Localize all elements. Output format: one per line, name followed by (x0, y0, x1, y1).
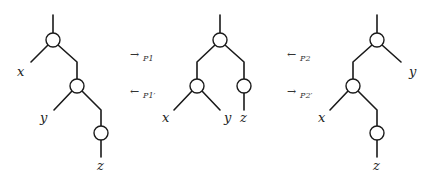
edge-to-y (382, 45, 401, 62)
tree-rotation-diagram: x y z → P1 ← P1′ x y z ← P2 → P2′ (0, 0, 436, 181)
leaf-x: x (318, 110, 326, 125)
edge-to-subtree (353, 45, 372, 79)
edge-to-right-subtree (225, 45, 244, 79)
leaf-y: y (223, 110, 232, 125)
arrow-label-p1-prime: P1′ (142, 91, 155, 100)
node-root (213, 33, 227, 47)
leaf-y: y (39, 110, 48, 125)
leaf-z: z (96, 158, 104, 173)
node-inner (70, 79, 84, 93)
edge-to-x (330, 91, 348, 110)
leaf-z: z (239, 110, 247, 125)
edge-to-x (31, 45, 48, 62)
node-root (46, 33, 60, 47)
node-inner (190, 79, 204, 93)
tree-middle: x y z (162, 15, 251, 125)
arrow-left-icon: ← (287, 48, 296, 61)
tree-left: x y z (17, 15, 108, 173)
arrow-right-icon: → (130, 48, 139, 61)
edge-to-left-subtree (197, 45, 215, 79)
node-unary (237, 79, 251, 93)
arrows-p2: ← P2 → P2′ (287, 48, 312, 100)
node-unary (94, 126, 108, 140)
arrow-right-icon: → (287, 85, 296, 98)
leaf-x: x (17, 64, 25, 79)
node-unary (370, 126, 384, 140)
edge-to-x (174, 91, 192, 110)
node-root (370, 33, 384, 47)
edge-to-y (202, 91, 220, 110)
edge-to-subtree (58, 45, 77, 79)
arrow-label-p2: P2 (299, 54, 310, 63)
leaf-y: y (408, 64, 417, 79)
arrow-label-p2-prime: P2′ (299, 91, 312, 100)
arrows-p1: → P1 ← P1′ (130, 48, 155, 100)
node-inner (346, 79, 360, 93)
edge-to-y (54, 91, 72, 110)
leaf-x: x (162, 110, 170, 125)
edge-to-z-node (358, 91, 377, 126)
tree-right: y x z (318, 15, 417, 173)
arrow-left-icon: ← (130, 85, 139, 98)
edge-to-z-node (82, 91, 101, 126)
leaf-z: z (372, 158, 380, 173)
arrow-label-p1: P1 (142, 54, 153, 63)
